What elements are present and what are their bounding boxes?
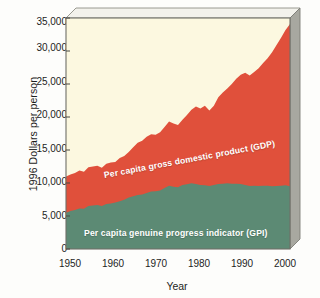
chart-figure: 1996 Dollars per person 0 5,000 10,000 1… [0, 0, 320, 298]
frame-top-bevel [66, 8, 300, 18]
plot-area [0, 0, 320, 298]
frame-right-bevel [290, 8, 300, 249]
area-chart-svg [0, 0, 320, 298]
